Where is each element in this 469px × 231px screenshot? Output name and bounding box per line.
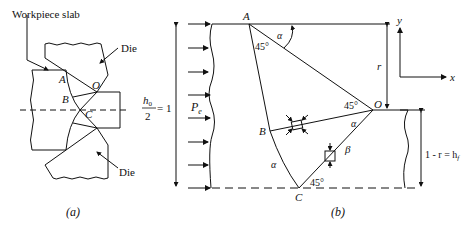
workpiece-leader — [27, 15, 48, 70]
point-c-label-b: C — [295, 191, 303, 203]
pressure-label: Pe — [190, 100, 202, 116]
figure-a-labels: Workpiece slab Die Die A B C O (a) — [12, 8, 137, 219]
figure-a — [20, 15, 128, 179]
point-c-label: C — [85, 108, 93, 120]
point-a-label: A — [58, 73, 66, 85]
figure-b — [176, 24, 446, 188]
r-label: r — [377, 60, 382, 72]
point-b-label-b: B — [259, 125, 266, 137]
point-o-label-b: O — [374, 98, 382, 110]
die-top-label: Die — [121, 42, 137, 54]
h0-label: h0 2 = 1 — [142, 94, 171, 122]
caption-a: (a) — [66, 205, 80, 219]
alpha-top-label: α — [277, 30, 283, 41]
svg-text:h0: h0 — [143, 94, 153, 108]
y-axis-label: y — [396, 14, 402, 26]
svg-text:2: 2 — [145, 110, 151, 122]
point-o-label: O — [92, 79, 100, 91]
alpha-bc-label: α — [271, 159, 277, 170]
left-boundary — [209, 24, 215, 188]
die-face-AO — [249, 24, 373, 110]
slip-line-lower-1 — [66, 110, 80, 150]
hf-label: 1 - r = hf — [425, 149, 460, 162]
workpiece-label: Workpiece slab — [12, 8, 80, 20]
die-bottom-label: Die — [119, 166, 135, 178]
point-b-label: B — [62, 93, 69, 105]
angle-c-label: 45° — [310, 177, 324, 188]
slip-line-OB — [270, 110, 373, 131]
extrusion-slip-line-diagram: Workpiece slab Die Die A B C O (a) — [0, 0, 469, 231]
alpha-ob-label: α — [351, 118, 357, 129]
point-a-label-b: A — [242, 10, 250, 22]
caption-b: (b) — [331, 205, 345, 219]
angle-a-label: 45° — [255, 41, 269, 52]
angle-o-label: 45° — [344, 100, 358, 111]
beta-label: β — [344, 143, 351, 155]
svg-text:= 1: = 1 — [157, 102, 171, 114]
right-boundary — [404, 110, 409, 188]
x-axis-label: x — [449, 71, 455, 83]
alpha-angle-arc — [284, 26, 293, 48]
